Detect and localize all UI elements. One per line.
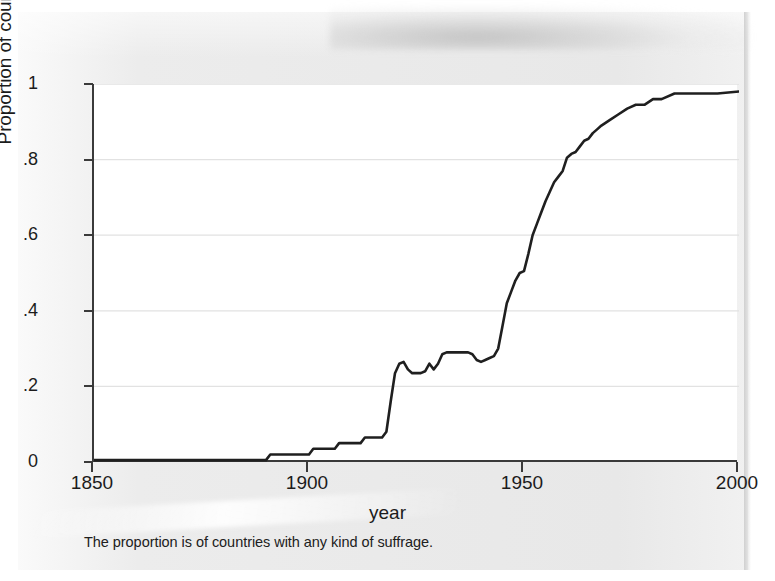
x-tick-label: 1850 bbox=[47, 472, 137, 494]
x-tick-mark bbox=[306, 462, 308, 472]
x-tick-mark bbox=[91, 462, 93, 472]
plot-area bbox=[92, 84, 737, 462]
x-tick-label: 1950 bbox=[477, 472, 567, 494]
x-axis-title: year bbox=[0, 502, 775, 524]
y-tick-mark bbox=[84, 83, 93, 85]
y-tick-label: 0 bbox=[0, 451, 38, 472]
y-axis-title: Proportion of countries bbox=[0, 0, 16, 170]
suffrage-line-chart: 0.2.4.6.81 1850190019502000 Proportion o… bbox=[0, 0, 775, 581]
chart-note: The proportion is of countries with any … bbox=[84, 534, 433, 550]
y-tick-mark bbox=[84, 159, 93, 161]
gridlines bbox=[94, 84, 739, 462]
y-tick-mark bbox=[84, 234, 93, 236]
x-tick-mark bbox=[521, 462, 523, 472]
x-tick-mark bbox=[736, 462, 738, 472]
y-tick-mark bbox=[84, 385, 93, 387]
x-tick-label: 2000 bbox=[692, 472, 775, 494]
x-tick-label: 1900 bbox=[262, 472, 352, 494]
y-tick-label: .2 bbox=[0, 375, 38, 396]
y-tick-label: .6 bbox=[0, 224, 38, 245]
series-line-suffrage bbox=[94, 92, 739, 461]
y-tick-label: .4 bbox=[0, 300, 38, 321]
y-tick-mark bbox=[84, 310, 93, 312]
chart-plot-svg bbox=[94, 84, 739, 462]
